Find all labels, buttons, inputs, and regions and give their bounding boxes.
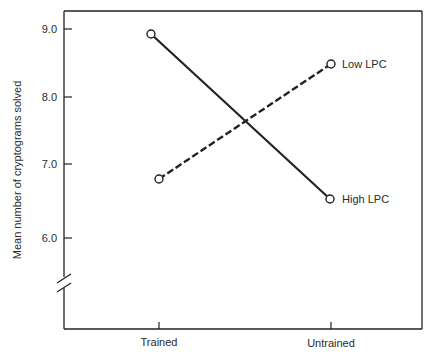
y-axis-title: Mean number of cryptograms solved bbox=[11, 81, 23, 260]
low-lpc-line bbox=[159, 64, 331, 179]
interaction-line-chart: 9.0 8.0 7.0 6.0 Mean number of cryptogra… bbox=[0, 0, 433, 357]
low-lpc-point-untrained bbox=[327, 60, 335, 68]
low-lpc-point-trained bbox=[155, 175, 163, 183]
low-lpc-label: Low LPC bbox=[342, 58, 387, 70]
high-lpc-label: High LPC bbox=[342, 193, 389, 205]
y-tick-label: 8.0 bbox=[42, 91, 57, 103]
y-tick-label: 6.0 bbox=[42, 232, 57, 244]
y-tick-label: 9.0 bbox=[42, 23, 57, 35]
x-tick-label-trained: Trained bbox=[141, 336, 178, 348]
series-high-lpc: High LPC bbox=[147, 30, 389, 205]
high-lpc-line bbox=[151, 34, 330, 199]
y-axis-ticks bbox=[64, 29, 72, 238]
series-low-lpc: Low LPC bbox=[155, 58, 387, 183]
x-axis-ticks bbox=[159, 322, 331, 329]
y-axis-tick-labels: 9.0 8.0 7.0 6.0 bbox=[42, 23, 57, 244]
y-tick-label: 7.0 bbox=[42, 158, 57, 170]
x-tick-label-untrained: Untrained bbox=[307, 337, 355, 349]
high-lpc-point-untrained bbox=[326, 195, 334, 203]
high-lpc-point-trained bbox=[147, 30, 155, 38]
